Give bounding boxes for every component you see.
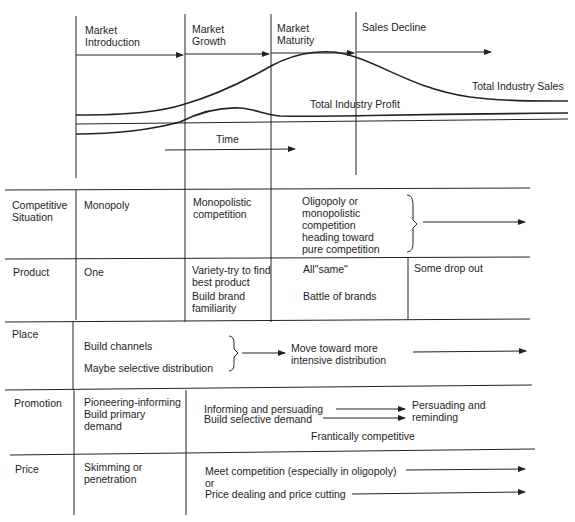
- price-line-2: Price dealing and price cutting: [205, 488, 346, 500]
- row-label-place: Place: [12, 328, 38, 340]
- row-label-product: Product: [13, 266, 49, 278]
- price-line-1: Meet competition (especially in oligopol…: [205, 465, 396, 477]
- product-maturity-2: Battle of brands: [303, 290, 377, 302]
- price-intro: Skimming orpenetration: [84, 461, 142, 485]
- competitive-maturity: Oligopoly ormonopolisticcompetitionheadi…: [302, 195, 380, 255]
- competitive-intro: Monopoly: [84, 199, 130, 211]
- stage-decline-label: Sales Decline: [362, 21, 426, 33]
- promotion-result: Persuading andreminding: [412, 399, 486, 423]
- product-decline: Some drop out: [414, 262, 483, 274]
- competitive-growth: Monopolisticcompetition: [193, 196, 251, 220]
- promotion-note: Frantically competitive: [311, 430, 415, 442]
- product-growth: Variety-try to findbest product: [192, 264, 271, 288]
- promotion-line-2: Build selective demand: [204, 413, 312, 425]
- profit-curve-label: Total Industry Profit: [310, 98, 400, 110]
- product-intro: One: [84, 266, 104, 278]
- stage-introduction-label: MarketIntroduction: [85, 24, 140, 48]
- place-line-1: Build channels: [84, 340, 152, 352]
- stage-growth-label: MarketGrowth: [192, 23, 226, 47]
- time-axis-label: Time: [216, 133, 239, 145]
- place-result: Move toward moreintensive distribution: [291, 342, 386, 366]
- diagram-lines: [0, 0, 575, 522]
- row-label-promotion: Promotion: [14, 397, 62, 409]
- stage-maturity-label: MarketMaturity: [277, 22, 314, 46]
- sales-curve-label: Total Industry Sales: [472, 80, 564, 92]
- row-label-price: Price: [15, 463, 39, 475]
- row-label-competitive: CompetitiveSituation: [12, 199, 67, 223]
- product-growth-2: Build brandfamiliarity: [192, 290, 245, 314]
- promotion-intro: Pioneering-informingBuild primarydemand: [84, 396, 181, 432]
- product-maturity: All"same": [303, 263, 348, 275]
- place-line-2: Maybe selective distribution: [84, 362, 213, 374]
